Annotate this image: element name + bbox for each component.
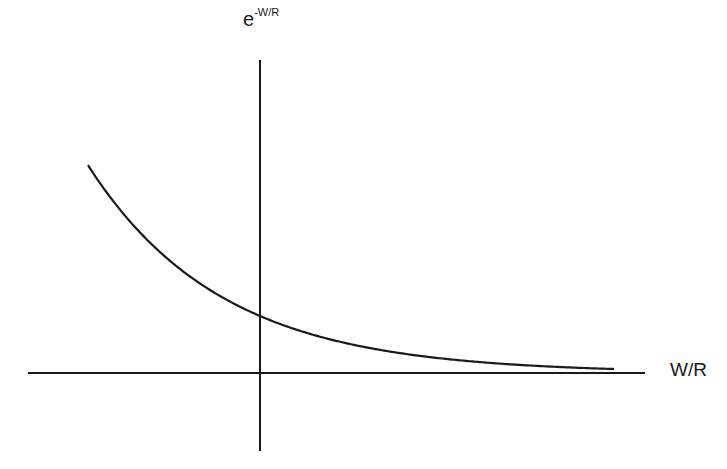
y-axis-label-base: e bbox=[243, 8, 254, 30]
x-axis-label: W/R bbox=[670, 359, 707, 381]
decay-diagram bbox=[0, 0, 727, 469]
y-axis-label: e-W/R bbox=[243, 8, 279, 31]
y-axis-label-exponent: -W/R bbox=[254, 6, 279, 18]
exponential-decay-curve bbox=[88, 165, 614, 369]
